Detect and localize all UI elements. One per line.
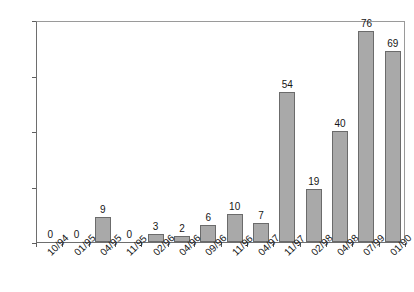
bar-group[interactable]: 3 [142,20,168,242]
bar[interactable] [358,31,374,242]
bar-group[interactable]: 10 [222,20,248,242]
bar-group[interactable]: 19 [301,20,327,242]
bar-group[interactable]: 76 [353,20,379,242]
bar-group[interactable]: 0 [37,20,63,242]
bar-value-label: 0 [126,229,132,240]
bar-value-label: 19 [308,176,319,187]
bar-value-label: 40 [335,118,346,129]
bar-value-label: 0 [47,229,53,240]
bar-group[interactable]: 0 [116,20,142,242]
bar-group[interactable]: 7 [248,20,274,242]
bar-chart: 020406080 00903261075419407669 10/9401/9… [0,0,414,292]
bar-value-label: 76 [361,18,372,29]
bar[interactable] [279,92,295,242]
bar-value-label: 69 [387,38,398,49]
bar-value-label: 9 [100,204,106,215]
bar-group[interactable]: 9 [90,20,116,242]
bar-group[interactable]: 40 [327,20,353,242]
bar[interactable] [306,189,322,242]
bar-group[interactable]: 2 [169,20,195,242]
bar-value-label: 54 [282,79,293,90]
bar-value-label: 3 [153,221,159,232]
bar-value-label: 0 [74,229,80,240]
plot-area: 00903261075419407669 [36,21,405,243]
bar-value-label: 2 [179,223,185,234]
bar-group[interactable]: 0 [63,20,89,242]
bar[interactable] [385,51,401,242]
x-axis-tick-mark [36,243,37,247]
bar-value-label: 6 [206,212,212,223]
bar-group[interactable]: 69 [380,20,406,242]
bar-group[interactable]: 54 [274,20,300,242]
bar-value-label: 7 [258,210,264,221]
bar[interactable] [332,131,348,242]
bar-group[interactable]: 6 [195,20,221,242]
bar-value-label: 10 [229,201,240,212]
